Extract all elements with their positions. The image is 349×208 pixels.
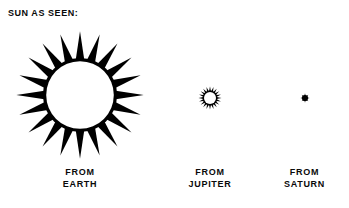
sun-apparent-size-figure: SUN AS SEEN: [0, 0, 349, 208]
spiky-sun-icon [198, 86, 222, 110]
caption-line-1: FROM [260, 167, 349, 179]
caption-line-1: FROM [160, 167, 260, 179]
caption-line-2: SATURN [260, 179, 349, 191]
sun-view-saturn: FROM SATURN [260, 0, 349, 208]
sun-view-saturn-caption: FROM SATURN [260, 167, 349, 190]
star-burst-icon [300, 93, 310, 103]
spiky-sun-icon [15, 30, 145, 160]
caption-line-2: JUPITER [160, 179, 260, 191]
caption-line-2: EARTH [0, 179, 160, 191]
sun-view-earth-caption: FROM EARTH [0, 167, 160, 190]
sun-view-jupiter-caption: FROM JUPITER [160, 167, 260, 190]
sun-view-jupiter: FROM JUPITER [160, 0, 260, 208]
sun-view-earth: FROM EARTH [0, 0, 160, 208]
caption-line-1: FROM [0, 167, 160, 179]
